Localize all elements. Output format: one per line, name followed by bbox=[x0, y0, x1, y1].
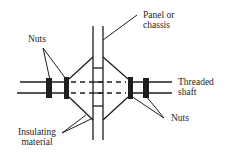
panel-label-line2: chassis bbox=[143, 20, 174, 30]
feedthrough-diagram: Panel or chassis Nuts Threaded shaft Nut… bbox=[0, 0, 231, 158]
panel-label-line1: Panel or bbox=[143, 10, 174, 20]
insulating-label-line2: material bbox=[12, 137, 62, 147]
panel-label: Panel or chassis bbox=[143, 10, 174, 30]
panel bbox=[93, 26, 103, 140]
shaft-label-line1: Threaded bbox=[178, 77, 214, 87]
insulating-material bbox=[69, 57, 128, 120]
shaft-label: Threaded shaft bbox=[178, 77, 214, 97]
insulating-label: Insulating material bbox=[12, 127, 62, 147]
shaft-label-line2: shaft bbox=[178, 87, 214, 97]
nuts-right-label: Nuts bbox=[171, 113, 189, 123]
nuts-right bbox=[128, 77, 149, 99]
nuts-left-label: Nuts bbox=[28, 34, 46, 44]
nuts-left bbox=[46, 77, 69, 99]
insulating-label-line1: Insulating bbox=[12, 127, 62, 137]
